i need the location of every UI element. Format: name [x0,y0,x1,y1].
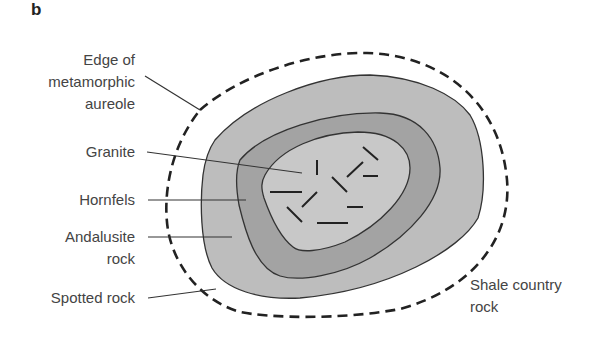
label-andalusite-rock: Andalusite rock [65,226,135,270]
label-spotted-rock: Spotted rock [51,287,135,309]
leader-line-edge [145,76,200,110]
label-edge-line2: metamorphic [48,71,135,93]
label-andalusite-line2: rock [65,248,135,270]
label-edge-line1: Edge of [48,49,135,71]
label-granite: Granite [86,141,135,163]
label-edge-line3: aureole [48,93,135,115]
label-andalusite-line1: Andalusite [65,226,135,248]
label-hornfels: Hornfels [79,189,135,211]
label-shale-country-rock: Shale country rock [470,274,562,318]
label-shale-line1: Shale country [470,274,562,296]
label-edge-of-metamorphic-aureole: Edge of metamorphic aureole [48,49,135,115]
label-shale-line2: rock [470,296,562,318]
